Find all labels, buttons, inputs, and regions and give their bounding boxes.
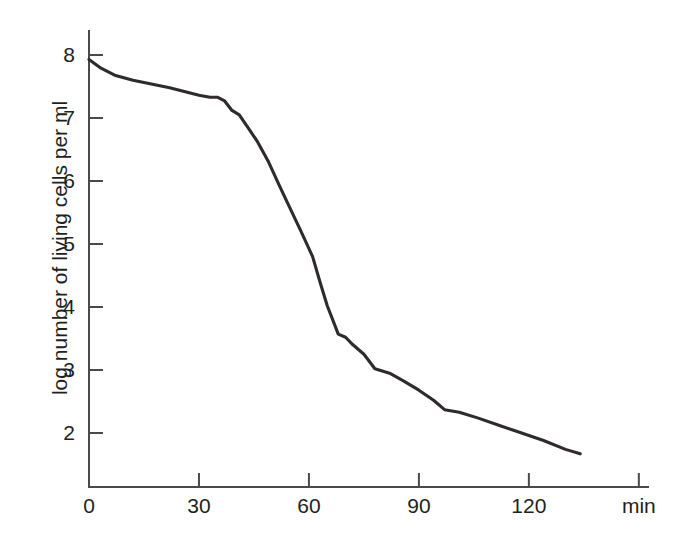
y-tick-label: 3 xyxy=(63,358,75,381)
chart-figure: log number of living cells per ml 876543… xyxy=(0,0,689,538)
y-tick-label: 8 xyxy=(63,43,75,66)
x-tick-label: 60 xyxy=(297,494,320,517)
y-ticks-group: 8765432 xyxy=(63,43,103,444)
x-tick-label: 90 xyxy=(407,494,430,517)
y-tick-label: 6 xyxy=(63,169,75,192)
y-tick-label: 2 xyxy=(63,421,75,444)
x-tick-label: 0 xyxy=(83,494,95,517)
axes-group xyxy=(89,31,648,487)
x-tick-label: 120 xyxy=(511,494,546,517)
y-tick-label: 4 xyxy=(63,295,75,318)
data-series-line xyxy=(89,59,580,453)
x-axis-unit-label: min xyxy=(622,494,656,517)
x-tick-label: 30 xyxy=(187,494,210,517)
y-tick-label: 5 xyxy=(63,232,75,255)
chart-plot-area: 8765432 0306090120min xyxy=(0,0,689,538)
x-ticks-group: 0306090120min xyxy=(83,473,656,517)
y-tick-label: 7 xyxy=(63,106,75,129)
